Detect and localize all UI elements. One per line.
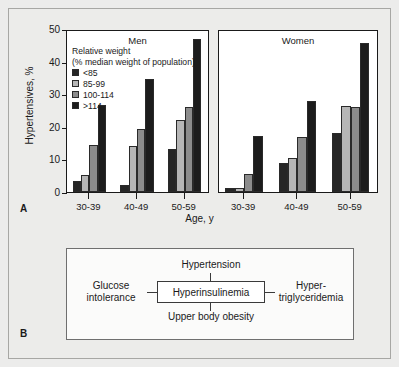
panel-a-chart: A Hypertensives, % 01020304050 Men Women… [0,0,399,232]
diagram-connector-bottom [210,302,211,311]
diagram-node-hypertriglyceridemia-line2: triglyceridemia [271,292,351,304]
legend-subtitle: (% median weight of population) [72,57,195,68]
x-axis-tick-label: 40-49 [274,201,318,212]
x-axis-tick-mark [350,193,351,199]
y-axis-tick-label: 50 [38,25,60,35]
bar [307,101,316,192]
x-axis-tick-label: 30-39 [221,201,265,212]
legend-entry-label: 85-99 [83,79,105,90]
legend-entry: <85 [72,68,195,79]
legend-entry-label: 100-114 [83,90,114,101]
y-axis-tick-label: 10 [38,155,60,165]
legend-title: Relative weight [72,46,195,57]
panel-b-label: B [20,328,27,339]
bar [235,188,244,192]
y-axis-title: Hypertensives, % [24,46,35,166]
figure-container: A Hypertensives, % 01020304050 Men Women… [0,0,399,367]
legend-swatch-icon [72,102,79,109]
bar [176,120,184,192]
legend-entry: 85-99 [72,79,195,90]
diagram-node-glucose-intolerance: Glucose intolerance [73,280,149,303]
bar [225,188,234,192]
bar [120,185,128,192]
bar [351,107,360,192]
x-axis-title: Age, y [0,213,399,224]
bar [129,146,137,192]
x-axis-tick-mark [296,193,297,199]
diagram-node-hypertriglyceridemia-line1: Hyper- [271,280,351,292]
legend-swatch-icon [72,80,79,87]
legend-entry-label: >114 [83,101,102,112]
bar [185,107,193,192]
diagram-node-hypertension: Hypertension [151,259,271,271]
bar [332,133,341,192]
bar [81,175,89,192]
bar [360,43,369,192]
bar [244,174,253,192]
x-axis-tick-label: 30-39 [66,201,110,212]
bar [341,106,350,192]
y-axis-tick-mark [62,193,67,194]
diagram-connector-right [265,292,275,293]
diagram-node-upper-body-obesity: Upper body obesity [143,311,279,323]
diagram-node-glucose-intolerance-line2: intolerance [73,292,149,304]
x-axis-tick-mark [88,193,89,199]
bar [288,158,297,192]
bar [279,163,288,192]
x-axis-tick-mark [243,193,244,199]
legend-swatch-icon [72,91,79,98]
legend-swatch-icon [72,69,79,76]
x-axis-tick-label: 50-59 [328,201,372,212]
panel-b-diagram: Hypertension Glucose intolerance Hyperin… [66,248,354,340]
diagram-connector-top [210,273,211,282]
diagram-node-hypertriglyceridemia: Hyper- triglyceridemia [271,280,351,303]
legend-entry: 100-114 [72,90,195,101]
x-axis-tick-mark [184,193,185,199]
x-axis-tick-label: 50-59 [162,201,206,212]
plot-area-women: Women [218,30,378,193]
legend-entry: >114 [72,101,195,112]
bar [73,181,81,192]
legend-entry-label: <85 [83,68,98,79]
y-axis-tick-label: 20 [38,123,60,133]
bar [297,137,306,192]
y-axis-tick-label: 0 [38,188,60,198]
bars-women [219,31,377,192]
chart-legend: Relative weight (% median weight of popu… [72,46,195,111]
x-axis-tick-mark [136,193,137,199]
bar [98,105,106,192]
x-axis-tick-label: 40-49 [114,201,158,212]
diagram-node-hyperinsulinemia: Hyperinsulinemia [157,281,265,303]
bar [89,145,97,192]
bar [137,129,145,192]
legend-entries: <8585-99100-114>114 [72,68,195,112]
bar [168,149,176,192]
diagram-connector-left [147,292,157,293]
diagram-node-glucose-intolerance-line1: Glucose [73,280,149,292]
bar [253,136,262,192]
y-axis-tick-label: 30 [38,90,60,100]
y-axis-tick-label: 40 [38,58,60,68]
